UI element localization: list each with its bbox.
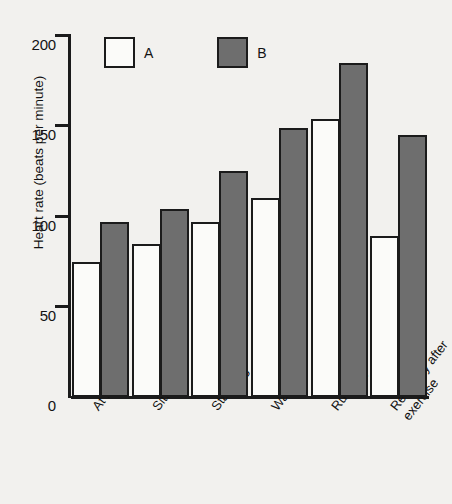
y-axis-title: Heart rate (beats per minute) <box>31 43 46 283</box>
y-tick-label: 100 <box>4 217 56 234</box>
bar-series-b <box>339 63 368 397</box>
plot-area <box>71 35 429 397</box>
y-tick-mark <box>55 34 71 37</box>
bar-series-a <box>132 244 161 397</box>
bar-group <box>251 35 308 397</box>
bar-group <box>191 35 248 397</box>
bar-series-b <box>160 209 189 397</box>
y-tick-mark <box>55 305 71 308</box>
bar-series-b <box>279 128 308 397</box>
bar-series-a <box>72 262 101 397</box>
bar-series-b <box>219 171 248 397</box>
bar-series-a <box>370 236 399 397</box>
bar-group <box>72 35 129 397</box>
y-tick-label: 150 <box>4 126 56 143</box>
bar-series-a <box>251 198 280 397</box>
bar-series-a <box>311 119 340 397</box>
y-tick-mark <box>55 124 71 127</box>
bar-series-b <box>100 222 129 397</box>
bar-group <box>370 35 427 397</box>
y-tick-label: 0 <box>4 397 56 414</box>
y-tick-mark <box>55 215 71 218</box>
bar-group <box>311 35 368 397</box>
y-tick-label: 50 <box>4 307 56 324</box>
bar-series-a <box>191 222 220 397</box>
bar-group <box>132 35 189 397</box>
bar-series-b <box>398 135 427 397</box>
y-tick-label: 200 <box>4 36 56 53</box>
